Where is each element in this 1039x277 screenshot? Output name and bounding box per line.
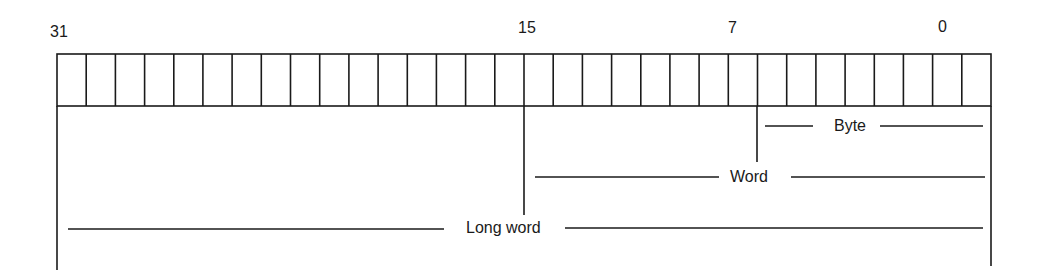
segment-label-byte: Byte	[832, 118, 868, 134]
segment-label-long-word: Long word	[464, 220, 543, 236]
bit-label-31: 31	[50, 24, 68, 40]
bit-dividers	[86, 54, 962, 106]
segment-label-word: Word	[728, 169, 770, 185]
bit-label-15: 15	[518, 20, 536, 36]
bit-label-7: 7	[728, 20, 737, 36]
bit-label-0: 0	[938, 19, 947, 35]
